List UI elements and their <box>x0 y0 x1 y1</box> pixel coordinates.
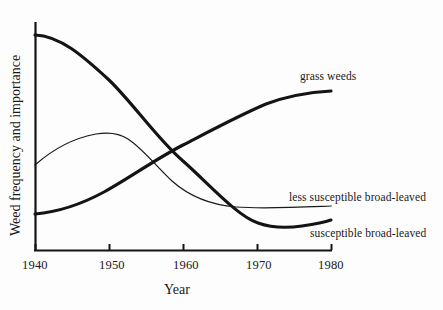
series-label-grass-weeds: grass weeds <box>300 71 356 83</box>
x-tick-label-1970: 1970 <box>246 259 272 272</box>
y-axis-label: Weed frequency and importance <box>9 55 23 236</box>
plot-area <box>0 0 443 310</box>
series-label-less-susceptible-broad-leaved: less susceptible broad-leaved <box>289 192 426 204</box>
series-line-susceptible-broad-leaved <box>35 35 331 227</box>
x-tick-label-1940: 1940 <box>22 259 48 272</box>
x-tick-label-1960: 1960 <box>173 259 199 272</box>
series-label-susceptible-broad-leaved: susceptible broad-leaved <box>310 228 426 240</box>
x-axis-label: Year <box>164 283 190 297</box>
x-tick-label-1950: 1950 <box>99 259 125 272</box>
series-line-grass-weeds <box>35 91 331 214</box>
axis-group <box>34 22 332 251</box>
x-tick-label-1980: 1980 <box>318 259 344 272</box>
chart-figure: 1940 1950 1960 1970 1980 Year Weed frequ… <box>0 0 443 310</box>
